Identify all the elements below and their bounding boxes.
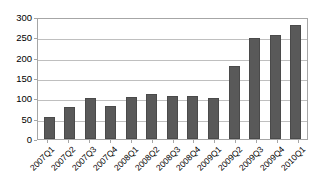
y-tick-label: 300 — [16, 13, 32, 23]
bar — [105, 106, 116, 139]
bar — [85, 98, 96, 139]
x-tick-mark — [68, 140, 69, 143]
bar — [167, 96, 178, 139]
y-axis: 050100150200250300 — [0, 0, 37, 186]
y-tick-label: 250 — [16, 34, 32, 44]
x-tick-mark — [193, 140, 194, 143]
x-tick-mark — [256, 140, 257, 143]
bar — [64, 107, 75, 139]
bar — [187, 96, 198, 139]
bar-chart: 050100150200250300 2007Q12007Q22007Q3200… — [0, 0, 316, 186]
plot-area — [37, 18, 308, 140]
x-tick-mark — [131, 140, 132, 143]
x-tick-mark — [110, 140, 111, 143]
bar — [290, 25, 301, 139]
x-tick-mark — [89, 140, 90, 143]
y-tick-label: 150 — [16, 74, 32, 84]
y-tick-label: 100 — [16, 95, 32, 105]
bar — [229, 66, 240, 139]
x-tick-mark — [173, 140, 174, 143]
bar-series — [38, 19, 307, 139]
y-tick-label: 0 — [27, 135, 32, 145]
bar — [208, 98, 219, 139]
bar — [249, 38, 260, 139]
bar — [270, 35, 281, 139]
x-tick-mark — [235, 140, 236, 143]
bar — [44, 117, 55, 139]
x-tick-mark — [214, 140, 215, 143]
y-tick-label: 50 — [21, 115, 32, 125]
x-tick-mark — [47, 140, 48, 143]
x-tick-mark — [277, 140, 278, 143]
y-tick-label: 200 — [16, 54, 32, 64]
x-tick-mark — [298, 140, 299, 143]
x-axis: 2007Q12007Q22007Q32007Q42008Q12008Q22008… — [37, 140, 308, 186]
bar — [126, 97, 137, 139]
x-tick-mark — [152, 140, 153, 143]
bar — [146, 94, 157, 139]
